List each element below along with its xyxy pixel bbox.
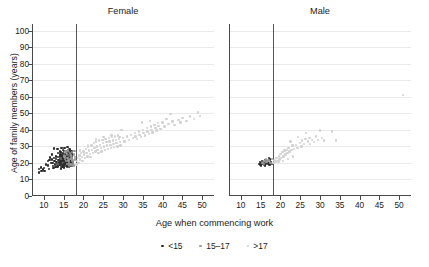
data-point xyxy=(87,144,89,146)
data-point xyxy=(299,142,301,144)
data-point xyxy=(199,115,201,117)
x-tick-label: 20 xyxy=(270,200,290,210)
data-point xyxy=(136,138,138,140)
gridline xyxy=(229,113,411,114)
legend-label: >17 xyxy=(253,241,267,251)
gridline xyxy=(32,80,214,81)
x-tick-label: 45 xyxy=(369,200,389,210)
legend-marker-icon xyxy=(199,245,202,248)
gridline xyxy=(32,64,214,65)
data-point xyxy=(287,158,289,160)
data-point xyxy=(108,137,110,139)
data-point xyxy=(165,118,167,120)
gridline xyxy=(229,97,411,98)
data-point xyxy=(296,147,298,149)
gridline xyxy=(32,47,214,48)
panel-male: Male 101520253035404550 xyxy=(229,24,411,196)
legend-item[interactable]: <15 xyxy=(161,241,182,251)
data-point xyxy=(185,120,187,122)
x-tick-label: 30 xyxy=(310,200,330,210)
data-point xyxy=(130,134,132,136)
data-point xyxy=(79,149,81,151)
data-point xyxy=(260,165,262,167)
data-point xyxy=(115,142,117,144)
y-tick-mark xyxy=(28,80,32,81)
panel-title-female: Female xyxy=(32,6,214,16)
data-point xyxy=(96,149,98,151)
y-tick-mark xyxy=(28,163,32,164)
data-point xyxy=(128,139,130,141)
data-point xyxy=(141,121,143,123)
reference-line xyxy=(273,24,274,196)
data-point xyxy=(157,125,159,127)
x-tick-label: 15 xyxy=(54,200,74,210)
data-point xyxy=(173,124,175,126)
data-point xyxy=(193,118,195,120)
data-point xyxy=(118,138,120,140)
y-tick-label: 20 xyxy=(7,159,29,167)
data-point xyxy=(313,141,315,143)
data-point xyxy=(104,149,106,151)
y-tick-label: 60 xyxy=(7,93,29,101)
gridline xyxy=(229,146,411,147)
data-point xyxy=(47,164,49,166)
panel-female: Female 101520253035404550 xyxy=(32,24,214,196)
gridline xyxy=(229,64,411,65)
data-point xyxy=(323,139,325,141)
data-point xyxy=(100,147,102,149)
gridline xyxy=(32,97,214,98)
data-point xyxy=(138,130,140,132)
data-point xyxy=(90,144,92,146)
data-point xyxy=(97,152,99,154)
data-point xyxy=(277,161,279,163)
x-tick-label: 10 xyxy=(34,200,54,210)
y-tick-mark xyxy=(28,47,32,48)
plot-area-male xyxy=(229,24,411,196)
data-point xyxy=(144,134,146,136)
y-tick-label: 10 xyxy=(7,175,29,183)
y-tick-mark xyxy=(28,97,32,98)
data-point xyxy=(134,132,136,134)
data-point xyxy=(297,136,299,138)
legend-item[interactable]: >17 xyxy=(247,241,268,251)
data-point xyxy=(169,113,171,115)
data-point xyxy=(112,143,114,145)
data-point xyxy=(317,139,319,141)
data-point xyxy=(104,138,106,140)
data-point xyxy=(303,143,305,145)
data-point xyxy=(122,137,124,139)
data-point xyxy=(119,144,121,146)
data-point xyxy=(189,115,191,117)
chart-legend: <1515–17>17 xyxy=(0,241,429,251)
y-tick-label: 40 xyxy=(7,126,29,134)
data-point xyxy=(114,135,116,137)
data-point xyxy=(77,162,79,164)
x-tick-label: 15 xyxy=(251,200,271,210)
data-point xyxy=(309,143,311,145)
data-point xyxy=(109,144,111,146)
data-point xyxy=(181,117,183,119)
y-tick-label: 80 xyxy=(7,60,29,68)
data-point xyxy=(126,135,128,137)
y-axis-line-male xyxy=(229,24,230,196)
data-point xyxy=(48,159,50,161)
data-point xyxy=(60,147,62,149)
data-point xyxy=(123,140,125,142)
data-point xyxy=(103,145,105,147)
data-point xyxy=(319,129,321,131)
data-point xyxy=(161,121,163,123)
data-point xyxy=(81,156,83,158)
data-point xyxy=(142,129,144,131)
gridline xyxy=(32,130,214,131)
data-point xyxy=(108,140,110,142)
legend-item[interactable]: 15–17 xyxy=(199,241,229,251)
data-point xyxy=(112,139,114,141)
data-point xyxy=(66,153,68,155)
data-point xyxy=(115,139,117,141)
gridline xyxy=(32,179,214,180)
data-point xyxy=(300,145,302,147)
data-point xyxy=(89,153,91,155)
x-tick-label: 30 xyxy=(113,200,133,210)
gridline xyxy=(229,179,411,180)
gridline xyxy=(32,31,214,32)
